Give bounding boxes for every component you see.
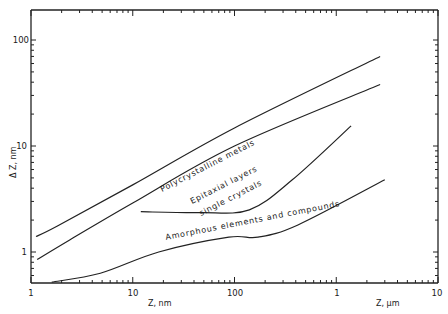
label-amorphous: Amorphous elements and compounds	[165, 199, 341, 242]
inline-labels: Polycrystalline metals Epitaxial layers …	[159, 138, 341, 242]
x-tick-label: 10	[432, 288, 443, 298]
x-tick-label: 10	[128, 288, 139, 298]
x-tick-labels: 1 10 100 1 10	[28, 288, 442, 298]
x-axis-label-nm: Z, nm	[148, 299, 172, 308]
x-tick-label: 1	[28, 288, 33, 298]
chart: 1 10 100 1 10 1 10 100 Z, nm Z, µm Δ Z, …	[0, 0, 448, 314]
x-tick-label: 100	[227, 288, 243, 298]
label-polycrystalline: Polycrystalline metals	[159, 138, 257, 194]
y-tick-labels: 1 10 100	[13, 35, 29, 257]
x-tick-label: 1	[334, 288, 339, 298]
y-tick-label: 1	[22, 247, 27, 257]
x-axis-label-um: Z, µm	[376, 299, 400, 308]
y-axis-ticks	[31, 40, 438, 276]
y-axis-label: Δ Z, nm	[9, 146, 18, 178]
y-tick-label: 100	[13, 35, 29, 45]
